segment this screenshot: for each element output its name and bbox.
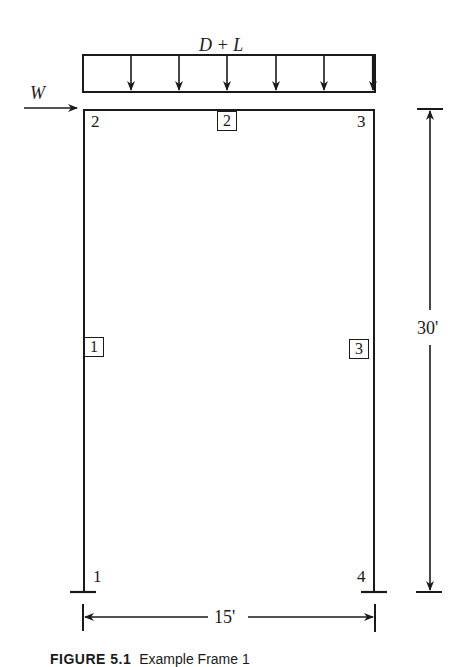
node-label-3: 3 xyxy=(357,113,366,130)
figure-number: FIGURE 5.1 xyxy=(50,651,131,667)
wind-label: W xyxy=(30,84,45,102)
frame xyxy=(83,109,375,591)
node-label-1: 1 xyxy=(93,568,102,585)
member-label-2: 2 xyxy=(217,111,237,131)
node-label-2: 2 xyxy=(91,113,100,130)
load-label: D + L xyxy=(199,36,243,54)
node-label-4: 4 xyxy=(357,568,366,585)
member-label-1: 1 xyxy=(84,337,104,357)
width-dimension-label: 15' xyxy=(214,608,235,626)
figure-caption-text: Example Frame 1 xyxy=(139,651,249,667)
figure-caption: FIGURE 5.1Example Frame 1 xyxy=(50,651,250,667)
height-dimension-label: 30' xyxy=(417,319,438,337)
height-dimension xyxy=(416,109,443,592)
distributed-load xyxy=(83,55,375,92)
member-label-3: 3 xyxy=(349,339,369,359)
